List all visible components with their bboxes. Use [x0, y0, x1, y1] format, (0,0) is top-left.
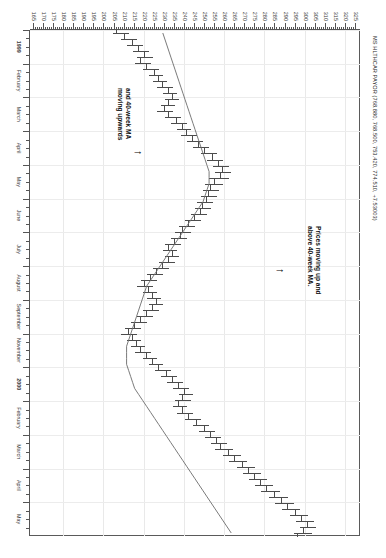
price-tick-label: 270: [242, 12, 248, 21]
price-tick-label: 215: [132, 12, 138, 21]
time-tick-label: September: [16, 304, 22, 330]
price-tick-major: [103, 23, 104, 30]
price-tick-label: 180: [61, 12, 67, 21]
price-tick-label: 240: [182, 12, 188, 21]
time-tick-label: April: [16, 480, 22, 491]
price-tick-major: [93, 23, 94, 30]
price-tick-major: [305, 23, 306, 30]
price-tick-major: [164, 23, 165, 30]
time-tick-major: [23, 435, 30, 436]
price-tick-label: 165: [31, 12, 37, 21]
plot-area: Prices moving up and above 40-week MA. ↑…: [30, 30, 360, 536]
price-tick-label: 285: [273, 12, 279, 21]
price-tick-major: [114, 23, 115, 30]
price-tick-label: 220: [142, 12, 148, 21]
price-tick-major: [335, 23, 336, 30]
annotation-arrow-up-1: ↑: [275, 268, 286, 274]
price-tick-label: 320: [343, 12, 349, 21]
price-tick-major: [295, 23, 296, 30]
price-tick-major: [184, 23, 185, 30]
time-tick-label: November: [16, 338, 22, 363]
price-tick-label: 295: [293, 12, 299, 21]
price-tick-label: 195: [91, 12, 97, 21]
price-tick-major: [194, 23, 195, 30]
price-tick-label: 260: [222, 12, 228, 21]
price-tick-label: 205: [112, 12, 118, 21]
price-tick-label: 255: [212, 12, 218, 21]
price-tick-major: [315, 23, 316, 30]
price-tick-label: 275: [252, 12, 258, 21]
price-tick-major: [53, 23, 54, 30]
price-tick-major: [224, 23, 225, 30]
annotation-prices-above-ma: Prices moving up and above 40-week MA.: [306, 226, 322, 295]
price-tick-major: [204, 23, 205, 30]
chart-title: MS HLTHCAR PAYOR (768.880, 768.500, 753.…: [372, 36, 378, 221]
time-tick-major: [23, 367, 30, 368]
price-tick-major: [355, 23, 356, 30]
time-tick-label: 2000: [16, 378, 22, 390]
time-tick-major: [23, 131, 30, 132]
time-tick-major: [23, 199, 30, 200]
time-tick-label: February: [16, 70, 22, 92]
annotation-ma-moving-upwards: and 40-week MA moving upwards: [116, 88, 132, 140]
annotation-arrow-up-2: ↑: [133, 150, 144, 156]
price-tick-major: [73, 23, 74, 30]
price-tick-label: 200: [101, 12, 107, 21]
price-tick-label: 225: [152, 12, 158, 21]
price-axis: 3253203153103053002952902852802752702652…: [30, 0, 360, 30]
time-tick-label: July: [16, 244, 22, 254]
price-tick-label: 210: [122, 12, 128, 21]
time-tick-major: [23, 64, 30, 65]
time-tick-major: [23, 334, 30, 335]
time-tick-label: August: [16, 275, 22, 292]
time-tick-major: [23, 232, 30, 233]
time-tick-major: [23, 469, 30, 470]
price-tick-major: [134, 23, 135, 30]
price-tick-label: 175: [51, 12, 57, 21]
price-tick-label: 170: [41, 12, 47, 21]
price-tick-label: 325: [353, 12, 359, 21]
price-tick-label: 265: [232, 12, 238, 21]
time-tick-label: May: [16, 177, 22, 187]
price-tick-label: 250: [202, 12, 208, 21]
time-tick-label: June: [16, 210, 22, 222]
price-tick-major: [124, 23, 125, 30]
time-tick-label: March: [16, 107, 22, 122]
price-tick-major: [234, 23, 235, 30]
time-tick-major: [23, 30, 30, 31]
price-tick-major: [174, 23, 175, 30]
time-tick-label: March: [16, 444, 22, 459]
price-tick-label: 300: [303, 12, 309, 21]
price-tick-label: 290: [283, 12, 289, 21]
price-tick-major: [244, 23, 245, 30]
time-axis: 1999FebruaryMarchAprilMayJuneJulyAugustS…: [0, 30, 30, 536]
price-tick-label: 185: [71, 12, 77, 21]
price-tick-major: [214, 23, 215, 30]
time-tick-major: [23, 165, 30, 166]
price-tick-label: 315: [333, 12, 339, 21]
time-tick-major: [23, 502, 30, 503]
time-tick-label: February: [16, 407, 22, 429]
time-tick-label: 1999: [16, 41, 22, 53]
price-tick-major: [43, 23, 44, 30]
price-tick-label: 310: [323, 12, 329, 21]
price-tick-major: [264, 23, 265, 30]
price-tick-major: [33, 23, 34, 30]
price-tick-label: 245: [192, 12, 198, 21]
chart-page: MS HLTHCAR PAYOR (768.880, 768.500, 753.…: [0, 0, 386, 558]
price-tick-major: [63, 23, 64, 30]
price-tick-major: [325, 23, 326, 30]
time-tick-major: [23, 266, 30, 267]
price-tick-major: [154, 23, 155, 30]
price-tick-label: 190: [81, 12, 87, 21]
time-tick-major: [23, 300, 30, 301]
rotated-chart-container: MS HLTHCAR PAYOR (768.880, 768.500, 753.…: [0, 0, 386, 558]
price-tick-major: [285, 23, 286, 30]
price-tick-major: [275, 23, 276, 30]
price-tick-major: [254, 23, 255, 30]
price-tick-major: [345, 23, 346, 30]
price-tick-label: 305: [313, 12, 319, 21]
time-tick-major: [23, 97, 30, 98]
price-tick-major: [144, 23, 145, 30]
price-tick-label: 280: [262, 12, 268, 21]
